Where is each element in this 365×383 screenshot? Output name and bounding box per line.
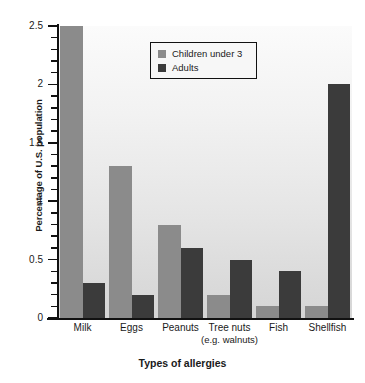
x-axis-tick-label-main: Shellfish xyxy=(309,322,347,333)
bar-chart-figure: Percentage of U.S. population 00.511.522… xyxy=(0,0,365,383)
bar-adults xyxy=(181,248,204,318)
bar-children-under-3 xyxy=(256,306,279,318)
legend-label-children: Children under 3 xyxy=(172,49,242,59)
bar-children-under-3 xyxy=(158,225,181,318)
bar-adults xyxy=(328,84,351,318)
chart-legend: Children under 3 Adults xyxy=(150,42,257,79)
y-axis-minor-tick xyxy=(51,49,58,51)
y-axis-minor-tick xyxy=(51,72,58,74)
x-axis-tick-label: Shellfish xyxy=(283,322,365,334)
x-axis-line xyxy=(47,318,354,320)
bar-adults xyxy=(279,271,302,318)
x-axis-tick-label-sub: (e.g. walnuts) xyxy=(185,334,275,346)
legend-swatch-children-icon xyxy=(158,50,166,58)
y-axis-minor-tick xyxy=(51,224,58,226)
y-axis-major-tick xyxy=(48,25,58,27)
y-axis-minor-tick xyxy=(51,95,58,97)
y-axis-minor-tick xyxy=(51,37,58,39)
y-axis-major-tick xyxy=(48,142,58,144)
bar-children-under-3 xyxy=(60,26,83,318)
y-axis-tick-label: 2 xyxy=(3,79,43,89)
y-axis-minor-tick xyxy=(51,154,58,156)
y-axis-minor-tick xyxy=(51,271,58,273)
y-axis-tick-label: 1.5 xyxy=(3,138,43,148)
y-axis-minor-tick xyxy=(51,177,58,179)
y-axis-major-tick xyxy=(48,317,58,319)
y-axis-major-tick xyxy=(48,84,58,86)
y-axis-minor-tick xyxy=(51,165,58,167)
bar-adults xyxy=(83,283,106,318)
legend-swatch-adults-icon xyxy=(158,64,166,72)
bar-children-under-3 xyxy=(305,306,328,318)
legend-entry-adults: Adults xyxy=(158,61,256,75)
y-axis-major-tick xyxy=(48,200,58,202)
y-axis-minor-tick xyxy=(51,294,58,296)
y-axis-minor-tick xyxy=(51,306,58,308)
bar-children-under-3 xyxy=(207,295,230,318)
y-axis-tick-label: 1 xyxy=(3,196,43,206)
y-axis-minor-tick xyxy=(51,60,58,62)
y-axis-minor-tick xyxy=(51,247,58,249)
y-axis-minor-tick xyxy=(51,235,58,237)
legend-entry-children: Children under 3 xyxy=(158,47,256,61)
bar-children-under-3 xyxy=(109,166,132,318)
y-axis-minor-tick xyxy=(51,282,58,284)
y-axis-minor-tick xyxy=(51,107,58,109)
y-axis-major-tick xyxy=(48,259,58,261)
y-axis-minor-tick xyxy=(51,212,58,214)
bar-adults xyxy=(230,260,253,318)
bar-adults xyxy=(132,295,155,318)
y-axis-tick-label: 2.5 xyxy=(3,21,43,31)
y-axis-minor-tick xyxy=(51,130,58,132)
y-axis-tick-label: 0.5 xyxy=(3,255,43,265)
y-axis-minor-tick xyxy=(51,119,58,121)
y-axis-minor-tick xyxy=(51,189,58,191)
legend-label-adults: Adults xyxy=(172,63,198,73)
x-axis-title: Types of allergies xyxy=(0,357,365,369)
